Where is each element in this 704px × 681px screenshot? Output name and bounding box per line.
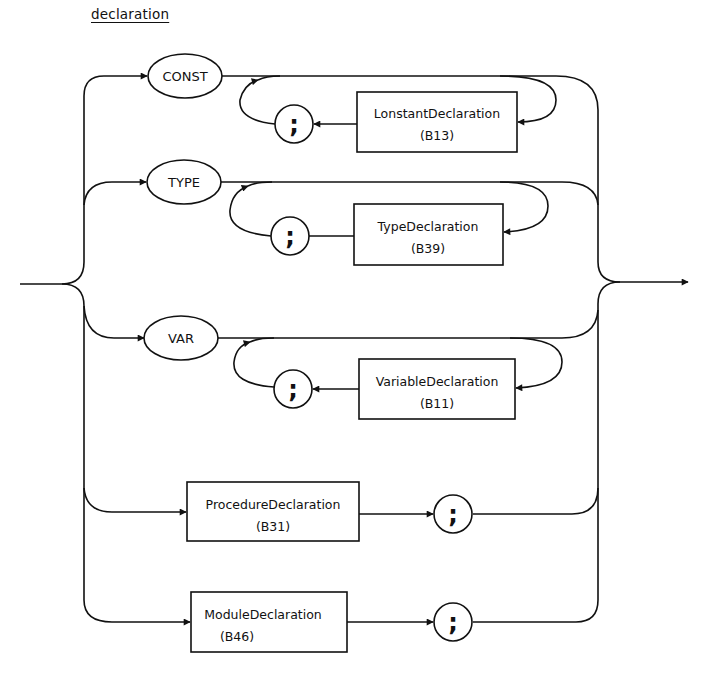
constant-declaration-ref: (B13) (420, 128, 454, 143)
syntax-diagram: CONST LonstantDeclaration (B13) ; TYPE T… (0, 0, 704, 681)
variable-declaration-ref: (B11) (420, 396, 454, 411)
type-declaration-ref: (B39) (411, 241, 445, 256)
module-branch: ModuleDeclaration (B46) ; (191, 592, 472, 652)
variable-declaration-label: VariableDeclaration (376, 374, 499, 389)
constant-declaration-label: LonstantDeclaration (374, 106, 500, 121)
semicolon-label: ; (288, 376, 298, 404)
semicolon-label: ; (448, 609, 458, 637)
semicolon-label: ; (285, 223, 295, 251)
procedure-declaration-ref: (B31) (256, 519, 290, 534)
keyword-const-label: CONST (162, 69, 207, 84)
const-branch: CONST LonstantDeclaration (B13) ; (148, 54, 556, 152)
semicolon-label: ; (289, 111, 299, 139)
procedure-declaration-label: ProcedureDeclaration (206, 497, 341, 512)
constant-declaration-box (357, 92, 517, 152)
type-declaration-label: TypeDeclaration (377, 219, 479, 234)
keyword-var-label: VAR (168, 331, 194, 346)
module-declaration-label: ModuleDeclaration (204, 607, 322, 622)
type-branch: TYPE TypeDeclaration (B39) ; (147, 160, 548, 265)
semicolon-label: ; (448, 501, 458, 529)
var-branch: VAR VariableDeclaration (B11) ; (144, 316, 562, 419)
keyword-type-label: TYPE (167, 175, 200, 190)
module-declaration-ref: (B46) (220, 629, 254, 644)
procedure-branch: ProcedureDeclaration (B31) ; (187, 482, 472, 541)
module-declaration-box (191, 592, 347, 652)
exit-path (473, 76, 688, 622)
